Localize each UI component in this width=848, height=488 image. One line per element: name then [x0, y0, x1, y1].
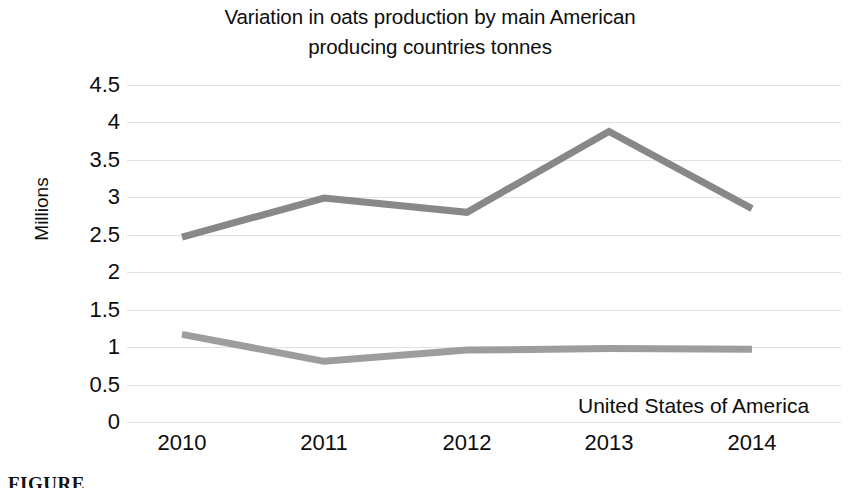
figure-caption: FIGURE	[8, 474, 85, 488]
y-axis-tick-labels: 4.5 4 3.5 3 2.5 2 1.5 1 0.5 0	[40, 85, 120, 422]
plot-area: Canada United States of America	[127, 85, 841, 422]
series-lines	[127, 85, 841, 422]
x-tick-label: 2014	[692, 430, 812, 456]
y-tick-label: 2.5	[40, 224, 120, 246]
y-tick-label: 3.5	[40, 149, 120, 171]
y-tick-label: 1.5	[40, 299, 120, 321]
y-tick-label: 4	[40, 111, 120, 133]
line-series-united-states-of-america	[182, 334, 752, 361]
chart-title-line-2: producing countries tonnes	[120, 32, 740, 62]
y-tick-label: 1	[40, 336, 120, 358]
y-tick-label: 2	[40, 261, 120, 283]
y-tick-label: 0	[40, 411, 120, 433]
chart-title-line-1: Variation in oats production by main Ame…	[120, 2, 740, 32]
gridline	[127, 422, 841, 423]
chart-title: Variation in oats production by main Ame…	[120, 2, 740, 62]
series-annotation-usa: United States of America	[578, 395, 809, 416]
x-tick-label: 2012	[407, 430, 527, 456]
y-tick-label: 0.5	[40, 374, 120, 396]
x-tick-label: 2013	[549, 430, 669, 456]
x-tick-label: 2011	[264, 430, 384, 456]
line-series-canada	[182, 131, 752, 237]
y-tick-label: 3	[40, 186, 120, 208]
x-axis-tick-labels: 2010 2011 2012 2013 2014	[127, 430, 841, 464]
x-tick-label: 2010	[122, 430, 242, 456]
y-tick-label: 4.5	[40, 74, 120, 96]
figure-container: Variation in oats production by main Ame…	[0, 0, 848, 488]
